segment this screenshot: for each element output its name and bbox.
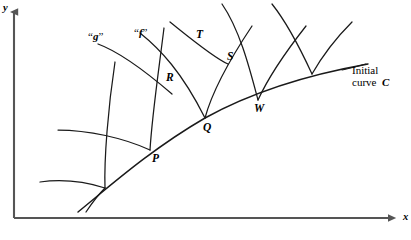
f-curve-1-through-lowerleft [105,62,115,188]
f-curve-2-through-P [150,28,164,150]
point-label-T: T [196,28,203,41]
f-family-label: “f” [134,26,147,38]
initial-curve-C [78,64,368,212]
g-curve-1-through-P [58,130,150,150]
point-label-S: S [227,50,233,63]
f-curve-5-upper [312,22,352,74]
g-family-curves [40,4,312,188]
diagram-canvas [0,0,411,240]
f-close-quote: ” [143,26,148,38]
initial-curve-caption: Initial curve C [352,64,389,89]
initial-curve-symbol: C [382,76,389,88]
point-label-W: W [254,102,264,115]
initial-curve-caption-line1: Initial [352,64,389,76]
g-close-quote: ” [98,30,103,42]
characteristic-curves-figure: y x “g” “f” P Q W R T S Initial curve C [0,0,411,240]
x-axis-label: x [403,211,408,223]
initial-curve-caption-word: curve [352,76,376,88]
f-curve-4-through-W [258,26,306,100]
point-label-Q: Q [203,121,211,134]
point-label-R: R [166,71,174,84]
f-family-curves [86,22,352,212]
initial-curve-caption-line2: curve C [352,76,389,88]
g-family-label: “g” [88,30,103,42]
point-label-P: P [152,152,159,165]
g-curve-0-lower [40,181,105,188]
f-curve-3-through-Q [205,26,252,118]
y-axis-label: y [3,2,8,14]
